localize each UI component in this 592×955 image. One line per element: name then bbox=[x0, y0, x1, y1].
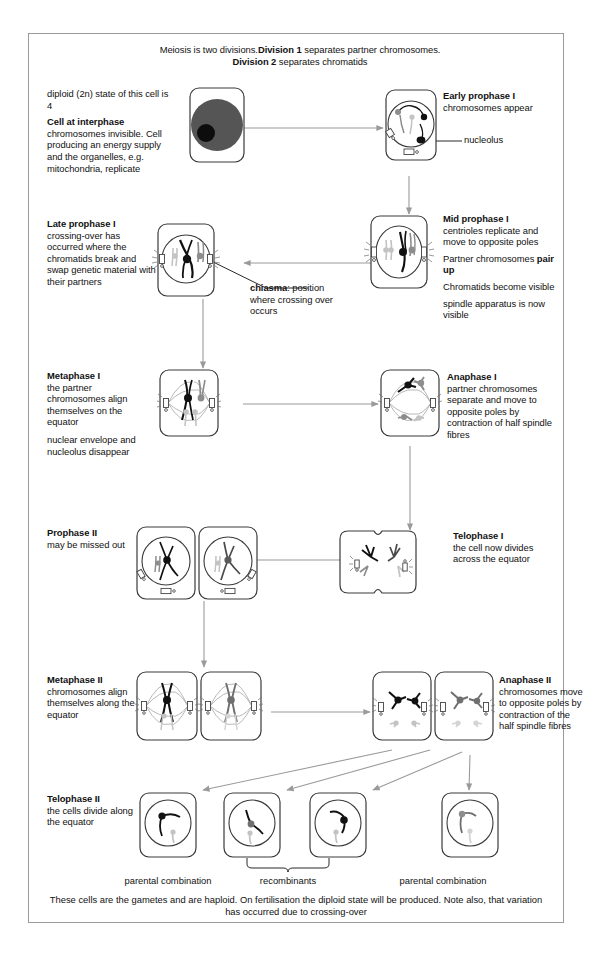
label-recombinants: recombinants bbox=[243, 875, 333, 887]
mid-prophase-1-body2a: Partner chromosomes bbox=[443, 253, 534, 264]
text-early-prophase-1: Early prophase I chromosomes appear bbox=[443, 90, 563, 113]
metaphase-2-body: chromosomes align themselves along the e… bbox=[47, 686, 135, 720]
mid-prophase-1-body3: Chromatids become visible bbox=[443, 281, 554, 292]
footer-summary-line2: has occurred due to crossing-over bbox=[225, 906, 367, 917]
label-parental-combination-right: parental combination bbox=[383, 875, 503, 887]
metaphase-1-body2: nuclear envelope and nucleolus disappear bbox=[47, 434, 136, 457]
text-anaphase-2: Anaphase II chromosomes move to opposite… bbox=[499, 674, 585, 732]
text-interphase: diploid (2n) state of this cell is 4 Cel… bbox=[47, 88, 175, 174]
cell-gamete-1 bbox=[140, 793, 196, 857]
cell-mid-prophase-1 bbox=[364, 216, 434, 288]
mid-prophase-1-body1: centrioles replicate and move to opposit… bbox=[443, 225, 538, 248]
cell-anaphase-2-right bbox=[434, 672, 495, 740]
footer-summary-line1: These cells are the gametes and are hapl… bbox=[50, 894, 542, 905]
anaphase-1-body: partner chromosomes separate and move to… bbox=[447, 383, 552, 440]
telophase-1-body: the cell now divides across the equator bbox=[453, 542, 533, 565]
cell-prophase-2-right bbox=[199, 527, 257, 599]
cell-gamete-4 bbox=[442, 793, 498, 857]
text-metaphase-2: Metaphase II chromosomes align themselve… bbox=[47, 674, 145, 720]
cell-gamete-3 bbox=[310, 793, 366, 857]
text-anaphase-1: Anaphase I partner chromosomes separate … bbox=[447, 371, 557, 441]
cell-late-prophase-1 bbox=[152, 224, 220, 296]
anaphase-2-body: chromosomes move to opposite poles by co… bbox=[499, 686, 583, 732]
cell-early-prophase-1 bbox=[386, 90, 436, 160]
anaphase-1-heading: Anaphase I bbox=[447, 371, 497, 382]
telophase-2-heading: Telophase II bbox=[47, 793, 100, 804]
cell-metaphase-2-right bbox=[199, 672, 263, 740]
text-telophase-1: Telophase I the cell now divides across … bbox=[453, 530, 561, 565]
interphase-pre: diploid (2n) state of this cell is 4 bbox=[47, 88, 168, 111]
text-telophase-2: Telophase II the cells divide along the … bbox=[47, 793, 139, 828]
text-mid-prophase-1: Mid prophase I centrioles replicate and … bbox=[443, 213, 561, 321]
cell-metaphase-1 bbox=[157, 370, 221, 436]
mid-prophase-1-heading: Mid prophase I bbox=[443, 213, 508, 224]
cell-prophase-2-left bbox=[137, 527, 195, 599]
text-late-prophase-1: Late prophase I crossing-over has occurr… bbox=[47, 218, 157, 288]
label-nucleolus: nucleolus bbox=[464, 134, 544, 146]
meiosis-diagram-page: Meiosis is two divisions.Division 1 sepa… bbox=[0, 0, 592, 955]
cell-anaphase-1 bbox=[378, 370, 442, 436]
label-chiasma: chiasma: position where crossing over oc… bbox=[250, 282, 340, 317]
nucleolus-dot bbox=[417, 137, 426, 144]
mid-prophase-1-body4: spindle apparatus is now visible bbox=[443, 298, 545, 321]
prophase-2-heading: Prophase II bbox=[47, 527, 97, 538]
prophase-2-body: may be missed out bbox=[47, 539, 125, 550]
interphase-body: chromosomes invisible. Cell producing an… bbox=[47, 128, 162, 174]
early-prophase-1-heading: Early prophase I bbox=[443, 90, 515, 101]
late-prophase-1-heading: Late prophase I bbox=[47, 218, 116, 229]
cell-gamete-2 bbox=[224, 793, 280, 857]
anaphase-2-heading: Anaphase II bbox=[499, 674, 551, 685]
early-prophase-1-body: chromosomes appear bbox=[443, 102, 533, 113]
interphase-heading: Cell at interphase bbox=[47, 116, 124, 127]
text-prophase-2: Prophase II may be missed out bbox=[47, 527, 137, 550]
metaphase-1-heading: Metaphase I bbox=[47, 370, 100, 381]
cell-anaphase-2-left bbox=[372, 672, 433, 740]
chiasma-bold: chiasma bbox=[250, 282, 287, 293]
late-prophase-1-body: crossing-over has occurred where the chr… bbox=[47, 230, 156, 287]
metaphase-1-body1: the partner chromosomes align themselves… bbox=[47, 382, 127, 428]
telophase-2-body: the cells divide along the equator bbox=[47, 805, 133, 828]
footer-summary: These cells are the gametes and are hapl… bbox=[40, 894, 552, 917]
telophase-1-heading: Telophase I bbox=[453, 530, 503, 541]
label-parental-combination-left: parental combination bbox=[108, 875, 228, 887]
cell-interphase bbox=[190, 88, 244, 162]
chiasma-point bbox=[183, 255, 191, 263]
metaphase-2-heading: Metaphase II bbox=[47, 674, 103, 685]
cell-telophase-1 bbox=[340, 531, 416, 593]
text-metaphase-1: Metaphase I the partner chromosomes alig… bbox=[47, 370, 151, 457]
